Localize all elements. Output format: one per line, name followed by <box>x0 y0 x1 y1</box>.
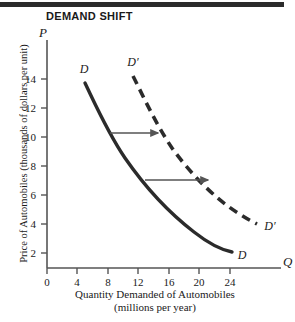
chart-plot-area: P Q 2 4 6 8 10 12 14 <box>0 0 295 322</box>
y-tick-label: 2 <box>31 247 37 259</box>
curve-label-d-bottom: D <box>237 248 247 262</box>
y-tick-label: 6 <box>31 189 37 201</box>
y-tick-label: 8 <box>31 160 37 172</box>
x-tick-label: 4 <box>74 276 80 288</box>
x-tick-label: 20 <box>194 276 206 288</box>
curve-label-d-prime-top: D′ <box>126 55 139 69</box>
demand-curve-d-prime <box>133 76 257 224</box>
x-tick-label: 0 <box>44 276 50 288</box>
x-tick-labels: 0 4 8 12 16 20 24 <box>44 276 236 288</box>
curve-label-d-prime-bottom: D′ <box>263 219 276 233</box>
x-tick-label: 16 <box>164 276 176 288</box>
y-tick-marks <box>41 79 47 253</box>
x-tick-label: 8 <box>105 276 111 288</box>
x-axis-title: Quantity Demanded of Automobiles (millio… <box>40 288 270 314</box>
x-tick-label: 12 <box>133 276 144 288</box>
x-axis-title-line2: (millions per year) <box>40 301 270 314</box>
curve-label-d-top: D <box>79 62 89 76</box>
x-tick-label: 24 <box>225 276 237 288</box>
x-tick-marks <box>47 268 230 274</box>
y-axis-title: Price of Automobiles (thousands of dolla… <box>18 39 29 269</box>
y-axis-variable-label: P <box>38 25 47 40</box>
y-tick-label: 4 <box>31 218 37 230</box>
demand-curve-d <box>85 83 232 252</box>
x-axis-title-line1: Quantity Demanded of Automobiles <box>75 288 235 300</box>
x-axis-variable-label: Q <box>283 254 293 269</box>
demand-shift-figure: DEMAND SHIFT P Q 2 4 6 8 10 12 14 <box>0 0 295 322</box>
